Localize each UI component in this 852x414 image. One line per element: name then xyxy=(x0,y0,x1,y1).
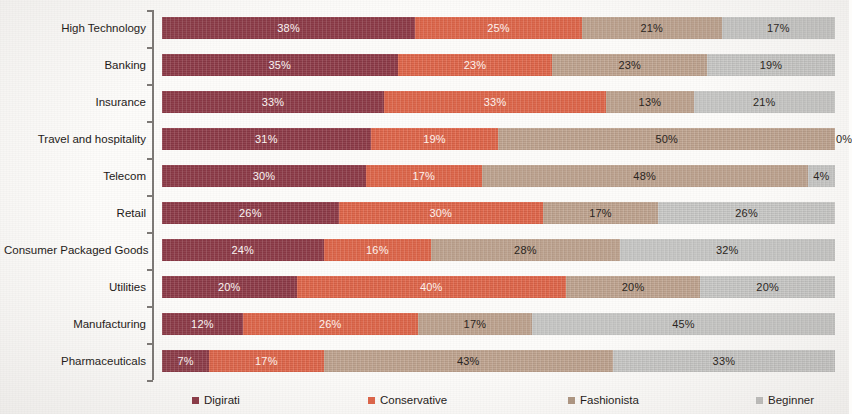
bar-segment[interactable]: 38% xyxy=(162,17,415,39)
bar-segment[interactable]: 26% xyxy=(243,313,418,335)
axis-tick xyxy=(147,47,153,49)
bar-segment[interactable]: 40% xyxy=(297,276,566,298)
category-label: Telecom xyxy=(4,165,146,187)
bar-value-label: 23% xyxy=(618,59,641,71)
legend-label: Fashionista xyxy=(580,394,639,406)
axis-tick xyxy=(147,269,153,271)
axis-tick xyxy=(147,10,153,12)
bar-segment[interactable]: 19% xyxy=(371,128,499,150)
legend-item-conservative[interactable]: Conservative xyxy=(368,390,447,410)
bar-value-label: 25% xyxy=(487,22,510,34)
bar-value-label: 20% xyxy=(218,281,241,293)
bar-value-label: 13% xyxy=(639,96,662,108)
bar-segment[interactable]: 28% xyxy=(431,239,619,261)
bar-segment[interactable]: 32% xyxy=(620,239,835,261)
table-row[interactable]: 24%16%28%32% xyxy=(162,239,835,261)
bar-segment[interactable]: 33% xyxy=(384,91,606,113)
bar-value-label: 40% xyxy=(420,281,443,293)
bar-segment[interactable]: 24% xyxy=(162,239,324,261)
table-row[interactable]: 35%23%23%19% xyxy=(162,54,835,76)
bar-segment[interactable]: 21% xyxy=(582,17,722,39)
bar-value-label: 17% xyxy=(412,170,435,182)
chart-legend: DigiratiConservativeFashionistaBeginner xyxy=(152,390,835,410)
bar-segment[interactable]: 4% xyxy=(808,165,835,187)
bar-value-label: 0% xyxy=(836,133,852,145)
bar-segment[interactable]: 43% xyxy=(324,350,613,372)
bar-segment[interactable]: 20% xyxy=(566,276,701,298)
bar-value-label: 50% xyxy=(655,133,678,145)
legend-item-beginner[interactable]: Beginner xyxy=(756,390,814,410)
legend-label: Conservative xyxy=(380,394,447,406)
bar-segment[interactable]: 12% xyxy=(162,313,243,335)
table-row[interactable]: 33%33%13%21% xyxy=(162,91,835,113)
category-label: Consumer Packaged Goods xyxy=(4,239,146,261)
table-row[interactable]: 31%19%50%0% xyxy=(162,128,835,150)
bar-segment[interactable]: 23% xyxy=(398,54,553,76)
table-row[interactable]: 12%26%17%45% xyxy=(162,313,835,335)
legend-label: Beginner xyxy=(768,394,814,406)
bar-segment[interactable]: 35% xyxy=(162,54,398,76)
bar-segment[interactable]: 7% xyxy=(162,350,209,372)
bar-segment[interactable]: 23% xyxy=(552,54,707,76)
legend-item-fashionista[interactable]: Fashionista xyxy=(568,390,639,410)
category-label: Banking xyxy=(4,54,146,76)
bar-segment[interactable]: 17% xyxy=(366,165,482,187)
bar-segment[interactable]: 26% xyxy=(162,202,339,224)
bar-value-label: 31% xyxy=(255,133,278,145)
bar-segment[interactable]: 45% xyxy=(532,313,835,335)
bar-value-label: 19% xyxy=(423,133,446,145)
bar-value-label: 23% xyxy=(464,59,487,71)
bar-segment[interactable]: 20% xyxy=(700,276,835,298)
table-row[interactable]: 38%25%21%17% xyxy=(162,17,835,39)
bar-segment[interactable]: 48% xyxy=(482,165,808,187)
bar-value-label: 26% xyxy=(319,318,342,330)
bar-value-label: 26% xyxy=(239,207,262,219)
axis-tick xyxy=(147,306,153,308)
bar-segment[interactable]: 33% xyxy=(613,350,835,372)
bar-segment[interactable]: 17% xyxy=(209,350,323,372)
table-row[interactable]: 26%30%17%26% xyxy=(162,202,835,224)
bar-value-label: 48% xyxy=(633,170,656,182)
axis-tick xyxy=(147,195,153,197)
legend-swatch-icon xyxy=(192,397,199,404)
bar-segment[interactable]: 33% xyxy=(162,91,384,113)
bar-value-label: 30% xyxy=(429,207,452,219)
bar-value-label: 17% xyxy=(767,22,790,34)
table-row[interactable]: 20%40%20%20% xyxy=(162,276,835,298)
bar-value-label: 4% xyxy=(813,170,829,182)
bar-segment[interactable]: 31% xyxy=(162,128,371,150)
bar-value-label: 16% xyxy=(366,244,389,256)
bar-segment[interactable]: 19% xyxy=(707,54,835,76)
category-label: Insurance xyxy=(4,91,146,113)
bar-segment[interactable]: 17% xyxy=(418,313,532,335)
bar-segment[interactable]: 25% xyxy=(415,17,582,39)
bar-segment[interactable]: 17% xyxy=(543,202,659,224)
bar-segment[interactable]: 13% xyxy=(606,91,693,113)
axis-tick xyxy=(147,158,153,160)
bar-value-label: 21% xyxy=(753,96,776,108)
category-label: High Technology xyxy=(4,17,146,39)
bar-segment[interactable]: 17% xyxy=(722,17,835,39)
bar-segment[interactable]: 30% xyxy=(339,202,543,224)
table-row[interactable]: 7%17%43%33% xyxy=(162,350,835,372)
category-label: Utilities xyxy=(4,276,146,298)
bar-segment[interactable]: 50% xyxy=(498,128,835,150)
category-label: Manufacturing xyxy=(4,313,146,335)
bar-value-label: 33% xyxy=(262,96,285,108)
bar-segment[interactable]: 30% xyxy=(162,165,366,187)
category-label: Travel and hospitality xyxy=(4,128,146,150)
bar-value-label: 26% xyxy=(735,207,758,219)
plot-area: 38%25%21%17%35%23%23%19%33%33%13%21%31%1… xyxy=(152,10,835,380)
table-row[interactable]: 30%17%48%4% xyxy=(162,165,835,187)
bar-segment[interactable]: 21% xyxy=(694,91,835,113)
legend-swatch-icon xyxy=(368,397,375,404)
bar-value-label: 35% xyxy=(268,59,291,71)
bar-segment[interactable]: 20% xyxy=(162,276,297,298)
bar-segment[interactable]: 16% xyxy=(324,239,432,261)
category-label: Pharmaceuticals xyxy=(4,350,146,372)
legend-swatch-icon xyxy=(568,397,575,404)
legend-item-digirati[interactable]: Digirati xyxy=(192,390,240,410)
bar-segment[interactable]: 26% xyxy=(658,202,835,224)
bar-value-label: 19% xyxy=(760,59,783,71)
